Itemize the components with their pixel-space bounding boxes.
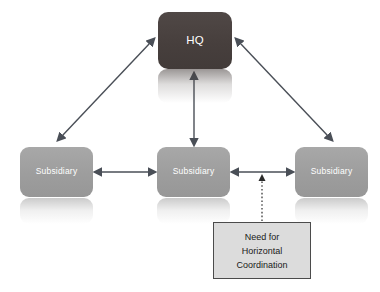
node-subsidiary-left[interactable]: Subsidiary [20, 147, 93, 197]
node-subsidiary-center[interactable]: Subsidiary [157, 147, 230, 197]
node-hq[interactable]: HQ [158, 12, 232, 69]
callout-line-2: Horizontal [242, 244, 283, 258]
node-subsidiary-right-label: Subsidiary [311, 167, 353, 176]
node-subsidiary-left-label: Subsidiary [36, 167, 78, 176]
node-subsidiary-center-label: Subsidiary [173, 167, 215, 176]
connector-hq-to-subsidiary-left [62, 43, 150, 136]
diagram-canvas: HQ Subsidiary Subsidiary Subsidiary Need… [0, 0, 380, 292]
callout-line-1: Need for [245, 230, 280, 244]
connector-hq-to-subsidiary-right [240, 43, 328, 136]
node-hq-label: HQ [186, 34, 204, 47]
callout-horizontal-coordination[interactable]: Need for Horizontal Coordination [213, 222, 311, 279]
node-subsidiary-right[interactable]: Subsidiary [295, 147, 368, 197]
callout-line-3: Coordination [236, 258, 287, 272]
